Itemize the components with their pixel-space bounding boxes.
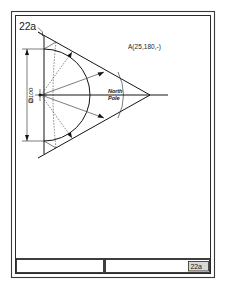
- technical-drawing-canvas: 22a 22a A(25,180,-): [0, 0, 226, 291]
- title-block-left-cell: [17, 260, 104, 273]
- title-block-frame: [16, 259, 211, 274]
- radial-ray-upper: [41, 72, 104, 95]
- north-pole-label-line1: North: [108, 88, 123, 94]
- arrowhead-icon-dashed-upper: [67, 52, 72, 58]
- drawing-sheet: 22a 22a A(25,180,-): [0, 0, 226, 291]
- north-pole-label-line2: Pole: [108, 95, 119, 101]
- arc-bottom-tie: [44, 141, 56, 148]
- arrowhead-icon-dashed-lower: [67, 132, 72, 138]
- sheet-outer-border: [12, 12, 215, 278]
- title-block: 22a: [16, 259, 211, 274]
- diameter-dimension-label: Ø100: [27, 87, 34, 104]
- arrowhead-icon-dim-top: [25, 49, 29, 55]
- sheet-inner-border: [16, 16, 211, 274]
- dashed-ray-upper: [41, 52, 72, 95]
- dashed-ray-lower: [41, 95, 72, 138]
- coordinate-annotation-label: A(25,180,-): [128, 43, 161, 51]
- construction-geometry: O North Pole: [28, 32, 168, 158]
- sheet-id-label: 22a: [191, 263, 202, 270]
- cone-upper-extension: [38, 32, 44, 36]
- arrowhead-icon-lower: [98, 113, 105, 118]
- figure-number-group: 22a: [19, 20, 43, 36]
- figure-number-label: 22a: [19, 20, 36, 32]
- arc-top-tie: [44, 42, 56, 49]
- arrowhead-icon-dim-bottom: [25, 135, 29, 141]
- radial-ray-lower: [41, 95, 104, 118]
- arrowhead-icon-upper: [98, 72, 105, 77]
